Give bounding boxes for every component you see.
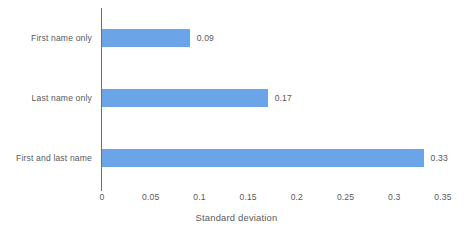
x-tick-label: 0.2 <box>291 192 303 202</box>
category-label: First and last name <box>16 153 92 163</box>
x-tick-label: 0.35 <box>434 192 451 202</box>
x-tick-label: 0.25 <box>337 192 354 202</box>
bar-chart: First name only 0.09 Last name only 0.17… <box>0 0 473 237</box>
x-tick-label: 0 <box>100 192 105 202</box>
bar <box>102 149 424 167</box>
x-tick-label: 0.05 <box>142 192 159 202</box>
category-label: Last name only <box>32 93 92 103</box>
bar-row: First and last name 0.33 <box>0 149 473 167</box>
bar-value-label: 0.17 <box>275 93 292 103</box>
x-axis-title: Standard deviation <box>0 212 473 223</box>
bar-value-label: 0.33 <box>431 153 448 163</box>
bar <box>102 89 268 107</box>
plot-area: First name only 0.09 Last name only 0.17… <box>0 0 473 237</box>
bar <box>102 29 190 47</box>
category-label: First name only <box>31 33 92 43</box>
bar-row: First name only 0.09 <box>0 29 473 47</box>
bar-value-label: 0.09 <box>197 33 214 43</box>
x-tick-label: 0.1 <box>193 192 205 202</box>
x-tick-label: 0.15 <box>239 192 256 202</box>
bar-row: Last name only 0.17 <box>0 89 473 107</box>
x-tick-label: 0.3 <box>388 192 400 202</box>
